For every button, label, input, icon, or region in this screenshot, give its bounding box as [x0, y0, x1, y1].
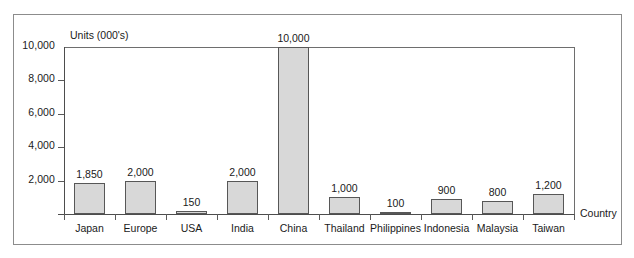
y-axis-tick-mark [58, 147, 64, 148]
x-axis-tick-mark [64, 214, 65, 220]
x-axis-tick-mark [472, 214, 473, 220]
x-axis-tick-mark [166, 214, 167, 220]
bar [431, 199, 462, 214]
x-axis-tick-mark [319, 214, 320, 220]
x-axis-tick-mark [268, 214, 269, 220]
bar-value-label: 10,000 [264, 32, 324, 44]
x-axis-tick-mark [370, 214, 371, 220]
x-axis-tick-mark [523, 214, 524, 220]
y-axis-tick-label: 10,000 [22, 39, 55, 51]
bar [227, 181, 258, 214]
x-axis-tick-mark [115, 214, 116, 220]
x-axis-line [58, 214, 574, 215]
bar [482, 201, 513, 214]
bar [74, 183, 105, 214]
y-axis-line [64, 47, 65, 215]
y-axis-title: Units (000's) [70, 29, 129, 41]
y-axis-tick-mark [58, 181, 64, 182]
bar [329, 197, 360, 214]
bar-value-label: 1,000 [315, 182, 375, 194]
x-axis-tick-mark [217, 214, 218, 220]
y-axis-tick-mark [58, 114, 64, 115]
x-axis-tick-mark [421, 214, 422, 220]
x-axis-category-label: Taiwan [519, 222, 578, 234]
y-axis-tick-mark [58, 80, 64, 81]
x-axis-tick-mark [574, 214, 575, 220]
x-axis-title: Country [580, 207, 617, 219]
bar [533, 194, 564, 214]
bar [380, 212, 411, 214]
y-axis-tick-label: 6,000 [28, 106, 55, 118]
top-gridline [64, 47, 574, 48]
bar-value-label: 2,000 [111, 166, 171, 178]
chart-figure-frame: Units (000's) Country 2,0004,0006,0008,0… [13, 14, 622, 245]
bar-value-label: 2,000 [213, 166, 273, 178]
bar [278, 47, 309, 214]
y-axis-tick-label: 2,000 [28, 173, 55, 185]
bar [176, 211, 207, 214]
bar-value-label: 100 [366, 197, 426, 209]
bar-value-label: 1,200 [519, 179, 579, 191]
bar [125, 181, 156, 214]
bar-value-label: 150 [162, 196, 222, 208]
y-axis-tick-label: 4,000 [28, 139, 55, 151]
y-axis-tick-label: 8,000 [28, 72, 55, 84]
